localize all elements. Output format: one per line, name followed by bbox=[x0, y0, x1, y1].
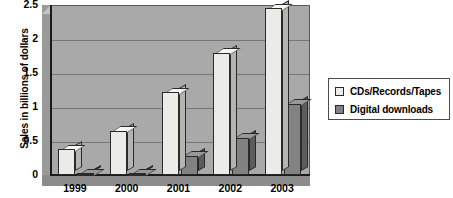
bar-front-face bbox=[58, 149, 75, 175]
bar-front-face bbox=[213, 53, 230, 175]
y-axis-line bbox=[50, 5, 52, 176]
y-axis-tick-label: 0.5 bbox=[12, 135, 38, 146]
bar-2001-cds bbox=[162, 92, 179, 175]
bar-2003-cds bbox=[265, 8, 282, 175]
y-axis-tick-label: 2.5 bbox=[12, 0, 38, 10]
y-axis-tick-labels: 00.511.522.5 bbox=[12, 0, 38, 198]
x-axis-tick-label: 2002 bbox=[207, 182, 253, 194]
legend-swatch-icon bbox=[335, 105, 344, 114]
bar-front-face bbox=[129, 173, 146, 175]
bar-2002-cds bbox=[213, 53, 230, 175]
legend-item: Digital downloads bbox=[335, 101, 449, 117]
bar-side-face bbox=[230, 45, 237, 171]
x-axis-tick-label: 1999 bbox=[52, 182, 98, 194]
bar-1999-digital bbox=[77, 173, 94, 175]
bar-chart: Sales in billions of dollars 00.511.522.… bbox=[0, 0, 453, 198]
bar-front-face bbox=[110, 131, 127, 175]
x-axis-tick-label: 2003 bbox=[259, 182, 305, 194]
plot-area bbox=[42, 5, 310, 186]
chart-legend: CDs/Records/TapesDigital downloads bbox=[328, 78, 450, 120]
bar-front-face bbox=[265, 8, 282, 175]
y-axis-tick-label: 1 bbox=[12, 101, 38, 112]
bar-1999-cds bbox=[58, 149, 75, 175]
legend-item-label: Digital downloads bbox=[350, 104, 433, 115]
legend-item-label: CDs/Records/Tapes bbox=[350, 86, 441, 97]
y-axis-tick-label: 2 bbox=[12, 33, 38, 44]
y-axis-tick-label: 0 bbox=[12, 169, 38, 180]
bar-2000-digital bbox=[129, 173, 146, 175]
bar-side-face bbox=[179, 84, 186, 171]
y-axis-tick-label: 1.5 bbox=[12, 67, 38, 78]
bar-front-face bbox=[162, 92, 179, 175]
bar-front-face bbox=[77, 173, 94, 175]
x-axis-tick-label: 2000 bbox=[104, 182, 150, 194]
legend-swatch-icon bbox=[335, 87, 344, 96]
legend-item: CDs/Records/Tapes bbox=[335, 83, 449, 99]
x-axis-tick-label: 2001 bbox=[156, 182, 202, 194]
bar-side-face bbox=[301, 96, 308, 171]
bar-side-face bbox=[282, 1, 289, 171]
bar-2000-cds bbox=[110, 131, 127, 175]
